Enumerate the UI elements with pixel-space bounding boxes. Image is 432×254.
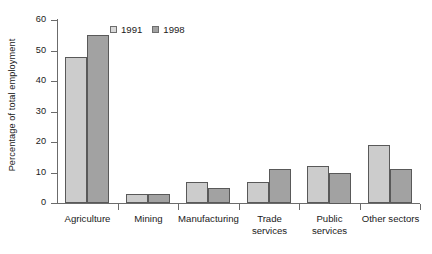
- legend: 1991 1998: [110, 25, 185, 35]
- bar-1991-mining: [126, 194, 148, 203]
- x-axis-tick: [239, 204, 240, 210]
- bar-1998-trade-services: [269, 169, 291, 203]
- bar-1991-other-sectors: [368, 145, 390, 203]
- bar-1991-trade-services: [247, 182, 269, 203]
- legend-label-1991: 1991: [121, 25, 142, 35]
- x-axis-label-agriculture: Agriculture: [57, 213, 118, 225]
- bar-1998-other-sectors: [390, 169, 412, 203]
- x-axis-tick: [420, 204, 421, 210]
- y-axis-tick-label: 40: [6, 76, 46, 85]
- y-axis-line: [57, 19, 58, 204]
- y-axis-title: Percentage of total employment: [0, 0, 24, 210]
- bar-1998-manufacturing: [208, 188, 230, 203]
- bar-1991-public-services: [307, 166, 329, 203]
- x-axis-label-mining: Mining: [118, 213, 179, 225]
- x-axis-label-manufacturing: Manufacturing: [178, 213, 239, 225]
- bar-1998-agriculture: [87, 35, 109, 203]
- bar-1998-mining: [148, 194, 170, 203]
- y-axis-tick-label: 50: [6, 46, 46, 55]
- bar-1991-manufacturing: [186, 182, 208, 203]
- legend-item-1998: 1998: [152, 25, 184, 35]
- y-axis-tick: [51, 203, 57, 204]
- y-axis-tick: [51, 173, 57, 174]
- y-axis-tick-label: 0: [6, 198, 46, 207]
- legend-item-1991: 1991: [110, 25, 142, 35]
- y-axis-title-text: Percentage of total employment: [7, 39, 17, 172]
- y-axis-tick: [51, 112, 57, 113]
- y-axis-tick-label: 60: [6, 15, 46, 24]
- y-axis-tick: [51, 81, 57, 82]
- y-axis-tick-label: 30: [6, 107, 46, 116]
- legend-swatch-1991-icon: [110, 26, 117, 33]
- x-axis-label-public-services: Public services: [299, 213, 360, 236]
- x-axis-label-trade-services: Trade services: [239, 213, 300, 236]
- y-axis-tick: [51, 20, 57, 21]
- bar-chart: Percentage of total employment 010203040…: [0, 0, 432, 254]
- x-axis-tick: [118, 204, 119, 210]
- y-axis-tick: [51, 51, 57, 52]
- bar-1998-public-services: [329, 173, 351, 204]
- x-axis-label-other-sectors: Other sectors: [360, 213, 421, 225]
- x-axis-tick: [178, 204, 179, 210]
- y-axis-tick-label: 20: [6, 137, 46, 146]
- y-axis-tick: [51, 142, 57, 143]
- bar-1991-agriculture: [65, 57, 87, 203]
- legend-label-1998: 1998: [163, 25, 184, 35]
- y-axis-tick-label: 10: [6, 168, 46, 177]
- x-axis-tick: [299, 204, 300, 210]
- legend-swatch-1998-icon: [152, 26, 159, 33]
- x-axis-tick: [360, 204, 361, 210]
